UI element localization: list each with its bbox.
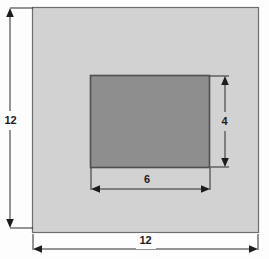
geometry-figure: 12 12 4: [0, 0, 269, 259]
outer-width-label: 12: [139, 234, 151, 246]
outer-width-arrow-left: [33, 245, 42, 253]
diagram-canvas: 12 12 4: [0, 0, 269, 259]
inner-width-label: 6: [144, 173, 150, 185]
outer-height-arrow-top: [6, 8, 14, 17]
outer-height-arrow-bottom: [6, 219, 14, 228]
outer-width-arrow-right: [249, 245, 258, 253]
inner-height-label: 4: [221, 115, 228, 127]
inner-rectangle: [91, 76, 210, 168]
outer-height-label: 12: [4, 114, 16, 126]
